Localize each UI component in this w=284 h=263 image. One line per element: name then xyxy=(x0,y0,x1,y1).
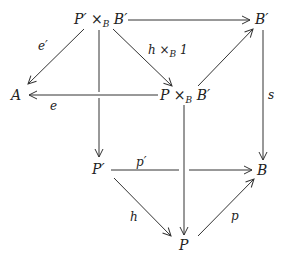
label-p: p xyxy=(231,210,239,222)
node-pprime-times-bprime: P′ ×B B′ xyxy=(74,12,127,29)
label-h-times-1: h ×B 1 xyxy=(148,44,188,59)
label-eprime: e′ xyxy=(38,40,48,52)
node-bprime: B′ xyxy=(255,12,268,26)
node-text-tail: B′ xyxy=(109,11,127,27)
node-p: P xyxy=(179,238,188,252)
label-pprime: p′ xyxy=(136,156,146,168)
node-text-tail: B′ xyxy=(192,87,210,103)
node-text: P × xyxy=(160,87,186,103)
commutative-diagram: P′ ×B B′ B′ A P ×B B′ P′ B P e′ h ×B 1 e… xyxy=(0,0,284,263)
node-a: A xyxy=(11,88,21,102)
arrow-h xyxy=(114,178,171,236)
edge-text: h × xyxy=(148,43,170,57)
node-text: P′ × xyxy=(74,11,103,27)
arrow-eprime xyxy=(28,29,84,84)
label-h: h xyxy=(130,211,138,223)
arrow-diag-up xyxy=(198,29,253,86)
label-s: s xyxy=(268,89,274,101)
node-b: B xyxy=(257,163,267,177)
node-p-times-bprime: P ×B B′ xyxy=(160,88,210,105)
edge-text-tail: 1 xyxy=(176,43,187,57)
label-e: e xyxy=(50,100,57,112)
node-pprime: P′ xyxy=(92,162,105,176)
arrow-p xyxy=(198,179,254,236)
